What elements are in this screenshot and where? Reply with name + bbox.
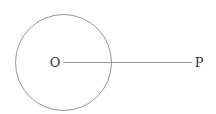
point-label-o: O xyxy=(50,55,61,70)
point-label-p: P xyxy=(195,55,204,70)
geometry-figure: O P xyxy=(0,0,216,114)
diagram-canvas: O P xyxy=(0,0,216,114)
